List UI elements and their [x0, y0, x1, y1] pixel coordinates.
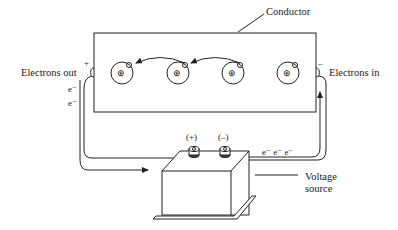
voltage-source-label-2: source — [305, 183, 332, 195]
right-electrons: e⁻ e⁻ e⁻ — [262, 146, 293, 158]
nucleus-3: ⊕ — [228, 67, 236, 79]
minus-mark: – — [318, 57, 323, 69]
left-electron-1: e⁻ — [68, 83, 77, 95]
battery-plus-label: (+) — [186, 131, 197, 143]
nucleus-4: ⊕ — [283, 67, 291, 79]
circuit-diagram — [0, 0, 398, 230]
electrons-out-label: Electrons out — [21, 67, 77, 79]
plus-mark: + — [84, 57, 89, 69]
nucleus-2: ⊕ — [173, 67, 181, 79]
electrons-in-label: Electrons in — [329, 67, 379, 79]
voltage-source-label-1: Voltage — [305, 171, 337, 183]
conductor-leader — [238, 14, 264, 32]
battery-minus-label: (–) — [218, 131, 229, 143]
wire-left-outer — [80, 80, 148, 170]
left-electron-2: e⁻ — [68, 97, 77, 109]
left-contact — [91, 68, 94, 77]
wire-left-inner — [84, 76, 190, 158]
nucleus-1: ⊕ — [117, 67, 125, 79]
battery — [153, 147, 256, 220]
conductor-label: Conductor — [266, 6, 310, 18]
